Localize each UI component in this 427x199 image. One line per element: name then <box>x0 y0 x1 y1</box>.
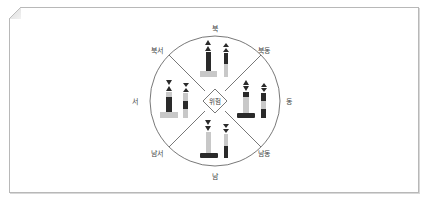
east-mark-large <box>237 80 255 118</box>
west-mark-large <box>160 80 178 118</box>
divider-ne <box>225 55 261 91</box>
label-northwest: 북서 <box>151 45 163 55</box>
south-mark-small <box>223 124 229 158</box>
south-mark-large <box>200 120 218 158</box>
label-east: 동 <box>286 96 292 106</box>
label-southwest: 남서 <box>151 148 163 158</box>
label-northeast: 북동 <box>258 45 270 55</box>
east-mark-small <box>261 83 267 118</box>
center-danger-label: 위험 <box>209 96 221 106</box>
label-south: 남 <box>212 171 218 181</box>
label-west: 서 <box>132 96 138 106</box>
north-mark-small <box>223 43 229 77</box>
label-north: 북 <box>212 23 218 33</box>
west-mark-small <box>183 83 189 118</box>
label-southeast: 남동 <box>258 148 270 158</box>
north-mark-large <box>200 40 217 77</box>
